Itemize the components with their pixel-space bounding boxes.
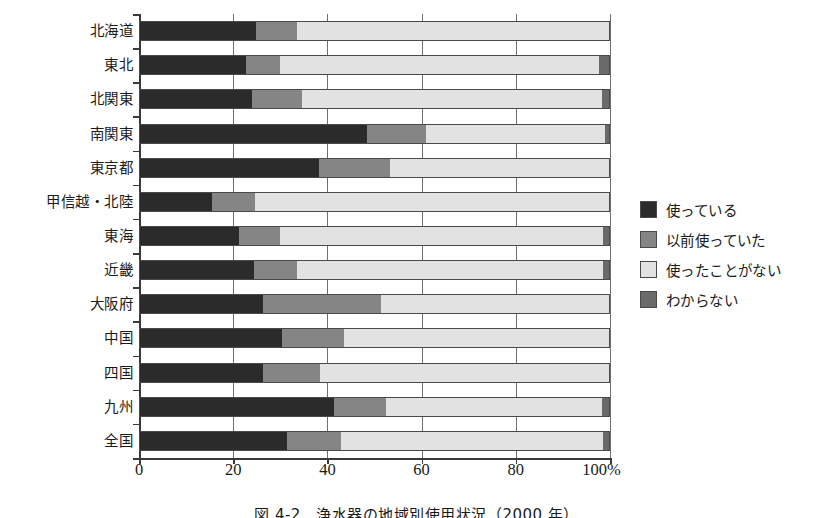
bar-segment <box>263 363 320 383</box>
bar-row <box>139 397 610 417</box>
y-tick-5 <box>133 185 139 187</box>
y-tick-9 <box>133 321 139 323</box>
x-axis-line <box>139 458 611 460</box>
bar-row <box>139 226 610 246</box>
y-axis-label-6: 東海 <box>3 226 133 246</box>
legend-item-2[interactable]: 使ったことがない <box>640 254 830 284</box>
legend-swatch-icon <box>640 261 657 278</box>
bar-segment <box>280 55 598 75</box>
bar-row <box>139 55 610 75</box>
bar-segment <box>367 124 426 144</box>
y-tick-1 <box>133 48 139 50</box>
bar-segment <box>139 192 212 212</box>
bar-segment <box>255 192 610 212</box>
y-axis-label-8: 大阪府 <box>3 294 133 314</box>
plot-area <box>139 14 610 458</box>
y-tick-8 <box>133 287 139 289</box>
bar-row <box>139 89 610 109</box>
bar-segment <box>256 21 297 41</box>
bar-segment <box>139 431 287 451</box>
bar-segment <box>212 192 255 212</box>
legend-label: 使ったことがない <box>666 259 781 280</box>
bar-segment <box>263 294 381 314</box>
y-axis-label-9: 中国 <box>3 328 133 348</box>
bar-segment <box>254 260 297 280</box>
y-axis-label-4: 東京都 <box>3 158 133 178</box>
y-axis-label-7: 近畿 <box>3 260 133 280</box>
bar-segment <box>287 431 340 451</box>
y-axis-label-11: 九州 <box>3 397 133 417</box>
y-tick-6 <box>133 219 139 221</box>
x-tick-label-40: 40 <box>319 460 336 480</box>
bar-segment <box>605 124 610 144</box>
bar-segment <box>139 158 319 178</box>
bar-row <box>139 363 610 383</box>
bar-segment <box>599 55 610 75</box>
y-tick-12 <box>133 424 139 426</box>
gridline-100 <box>610 14 611 458</box>
figure-caption: 図 4-2 浄水器の地域別使用状況（2000 年） <box>0 503 833 518</box>
chart-legend: 使っている以前使っていた使ったことがないわからない <box>640 194 830 314</box>
legend-item-3[interactable]: わからない <box>640 284 830 314</box>
bar-segment <box>390 158 610 178</box>
y-axis-label-3: 南関東 <box>3 124 133 144</box>
y-axis-label-2: 北関東 <box>3 89 133 109</box>
bar-row <box>139 21 610 41</box>
bar-segment <box>139 226 239 246</box>
bar-segment <box>246 55 280 75</box>
y-tick-7 <box>133 253 139 255</box>
bar-segment <box>381 294 610 314</box>
bar-row <box>139 294 610 314</box>
legend-swatch-icon <box>640 201 657 218</box>
x-tick-label-0: 0 <box>135 460 143 480</box>
bar-segment <box>426 124 605 144</box>
bar-segment <box>139 55 246 75</box>
bar-row <box>139 124 610 144</box>
bar-segment <box>139 397 334 417</box>
y-tick-11 <box>133 390 139 392</box>
y-tick-10 <box>133 356 139 358</box>
y-axis-label-12: 全国 <box>3 431 133 451</box>
bar-segment <box>139 363 263 383</box>
bar-segment <box>139 260 254 280</box>
bar-segment <box>602 89 610 109</box>
bar-segment <box>252 89 302 109</box>
bar-segment <box>139 89 252 109</box>
bar-segment <box>139 21 256 41</box>
y-axis-labels: 北海道東北北関東南関東東京都甲信越・北陸東海近畿大阪府中国四国九州全国 <box>0 14 133 458</box>
bar-segment <box>139 294 263 314</box>
bar-segment <box>319 158 390 178</box>
bar-segment <box>602 397 610 417</box>
x-tick-label-80: 80 <box>508 460 525 480</box>
legend-label: 使っている <box>666 199 737 220</box>
bar-segment <box>320 363 610 383</box>
bar-segment <box>603 260 610 280</box>
x-tick-label-100: 100% <box>582 460 621 480</box>
bar-segment <box>344 328 610 348</box>
bar-segment <box>603 226 610 246</box>
bar-row <box>139 431 610 451</box>
legend-label: 以前使っていた <box>666 229 766 250</box>
bar-segment <box>239 226 280 246</box>
x-tick-label-60: 60 <box>413 460 430 480</box>
legend-label: わからない <box>666 289 738 310</box>
y-axis-label-5: 甲信越・北陸 <box>3 192 133 212</box>
bar-segment <box>139 328 282 348</box>
x-tick-label-20: 20 <box>225 460 242 480</box>
bar-row <box>139 260 610 280</box>
legend-item-0[interactable]: 使っている <box>640 194 830 224</box>
bar-segment <box>302 89 602 109</box>
y-axis-label-0: 北海道 <box>3 21 133 41</box>
bar-row <box>139 328 610 348</box>
bar-segment <box>603 431 610 451</box>
y-axis-label-1: 東北 <box>3 55 133 75</box>
bar-segment <box>282 328 344 348</box>
y-tick-4 <box>133 151 139 153</box>
bar-row <box>139 192 610 212</box>
y-tick-3 <box>133 116 139 118</box>
legend-swatch-icon <box>640 291 657 308</box>
figure-container: 北海道東北北関東南関東東京都甲信越・北陸東海近畿大阪府中国四国九州全国 0204… <box>0 0 833 518</box>
legend-item-1[interactable]: 以前使っていた <box>640 224 830 254</box>
bar-row <box>139 158 610 178</box>
y-tick-0 <box>133 14 139 16</box>
